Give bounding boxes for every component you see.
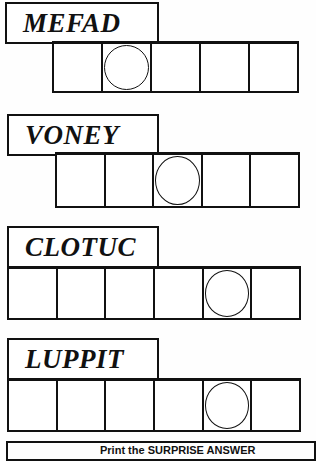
circled-letter-cell[interactable] xyxy=(204,381,253,430)
letter-cell[interactable] xyxy=(251,155,298,206)
circled-letter-cell[interactable] xyxy=(103,44,152,91)
letter-cell[interactable] xyxy=(106,269,155,318)
letter-cell[interactable] xyxy=(252,381,299,430)
letter-cell[interactable] xyxy=(58,269,107,318)
letter-cell[interactable] xyxy=(106,155,155,206)
scrambled-word-3: CLOTUC xyxy=(25,232,136,263)
surprise-answer-box: Print the SURPRISE ANSWER xyxy=(6,441,316,461)
scrambled-word-box-4: LUPPIT xyxy=(7,338,159,382)
answer-prompt: Print the SURPRISE ANSWER xyxy=(100,444,255,456)
letter-cell[interactable] xyxy=(201,44,250,91)
letter-cell[interactable] xyxy=(252,269,299,318)
scrambled-word-2: VONEY xyxy=(25,120,119,151)
letter-cell[interactable] xyxy=(250,44,297,91)
letter-cell[interactable] xyxy=(106,381,155,430)
letter-cell[interactable] xyxy=(9,269,58,318)
letter-cell[interactable] xyxy=(9,381,58,430)
letter-cell[interactable] xyxy=(203,155,252,206)
scrambled-word-box-2: VONEY xyxy=(7,114,159,156)
circled-letter-cell[interactable] xyxy=(204,269,253,318)
scrambled-word-box-3: CLOTUC xyxy=(7,226,159,270)
scrambled-word-1: MEFAD xyxy=(23,8,121,39)
letter-cell[interactable] xyxy=(152,44,201,91)
letter-cell[interactable] xyxy=(58,381,107,430)
letter-cell[interactable] xyxy=(155,381,204,430)
answer-cells-2 xyxy=(55,152,300,208)
scrambled-word-box-1: MEFAD xyxy=(5,2,159,44)
letter-cell[interactable] xyxy=(54,44,103,91)
circled-letter-cell[interactable] xyxy=(154,155,203,206)
answer-cells-4 xyxy=(7,378,301,432)
letter-cell[interactable] xyxy=(57,155,106,206)
answer-cells-3 xyxy=(7,266,301,320)
letter-cell[interactable] xyxy=(155,269,204,318)
answer-cells-1 xyxy=(52,41,299,93)
scrambled-word-4: LUPPIT xyxy=(25,344,124,375)
